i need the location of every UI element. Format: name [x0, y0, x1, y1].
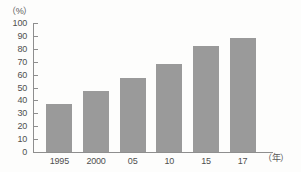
- bar: [120, 78, 146, 152]
- x-axis-line: [33, 152, 273, 153]
- bar: [230, 38, 256, 152]
- bar-chart-figure: （%） （年） 1009080706050403020100 199520000…: [0, 0, 301, 172]
- y-tick-mark: [34, 113, 38, 114]
- y-tick-label: 0: [22, 147, 27, 157]
- y-tick-label: 60: [17, 70, 27, 80]
- y-tick-mark: [34, 88, 38, 89]
- plot-area: 1009080706050403020100 1995200005101517: [33, 23, 273, 152]
- bar: [193, 46, 219, 152]
- bar: [83, 91, 109, 152]
- bar: [156, 64, 182, 152]
- y-tick-label: 40: [17, 95, 27, 105]
- y-tick-mark: [34, 139, 38, 140]
- bar: [46, 104, 72, 152]
- y-tick-mark: [34, 126, 38, 127]
- y-tick-mark: [34, 75, 38, 76]
- y-tick-mark: [34, 152, 38, 153]
- y-tick-label: 30: [17, 108, 27, 118]
- y-tick-label: 10: [17, 134, 27, 144]
- y-tick-label: 70: [17, 57, 27, 67]
- y-tick-mark: [34, 100, 38, 101]
- x-tick-label: 17: [221, 156, 265, 166]
- y-tick-mark: [34, 49, 38, 50]
- y-tick-mark: [34, 23, 38, 24]
- y-tick-mark: [34, 62, 38, 63]
- y-tick-label: 90: [17, 31, 27, 41]
- y-axis-unit-label: （%）: [7, 4, 32, 17]
- y-tick-mark: [34, 36, 38, 37]
- y-tick-label: 20: [17, 121, 27, 131]
- y-tick-label: 100: [13, 18, 27, 28]
- y-tick-label: 50: [17, 83, 27, 93]
- y-tick-label: 80: [17, 44, 27, 54]
